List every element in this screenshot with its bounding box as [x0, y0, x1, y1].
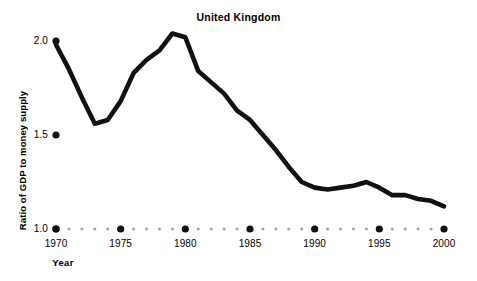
- y-tick-label-1-0: 1.0: [22, 223, 48, 234]
- y-tick-label-1-5: 1.5: [22, 129, 48, 140]
- x-tick-label-1985: 1985: [230, 238, 270, 249]
- x-tick-label-1970: 1970: [36, 238, 76, 249]
- chart-title: United Kingdom: [0, 11, 477, 23]
- x-tick-label-1995: 1995: [359, 238, 399, 249]
- x-tick-label-1975: 1975: [101, 238, 141, 249]
- y-tick-label-2-0: 2.0: [22, 35, 48, 46]
- x-tick-label-2000: 2000: [424, 238, 464, 249]
- data-line-united-kingdom: [56, 33, 444, 206]
- x-axis-major-tick-dots: [52, 225, 447, 232]
- y-axis-tick-dots: [52, 37, 59, 232]
- x-tick-label-1980: 1980: [165, 238, 205, 249]
- chart-figure: United Kingdom Ratio of GDP to money sup…: [0, 0, 477, 281]
- y-axis-title: Ratio of GDP to money supply: [17, 81, 28, 241]
- x-axis-title: Year: [41, 257, 85, 268]
- x-tick-label-1990: 1990: [295, 238, 335, 249]
